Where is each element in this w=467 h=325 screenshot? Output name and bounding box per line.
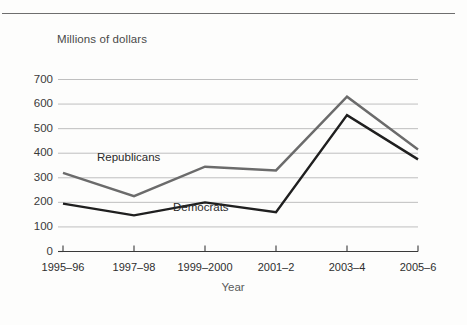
y-axis-tick-label: 100 xyxy=(19,220,53,232)
series-line-republicans xyxy=(63,97,418,197)
series-label-democrats: Democrats xyxy=(173,201,229,213)
x-axis-tick-label: 2005–6 xyxy=(400,261,437,273)
y-axis-tick-label: 400 xyxy=(19,146,53,158)
y-axis-tick-label: 200 xyxy=(19,195,53,207)
x-axis-tick-label: 1999–2000 xyxy=(177,261,232,273)
line-chart-plot-area xyxy=(0,0,467,325)
y-axis-tick-label: 0 xyxy=(19,245,53,257)
series-label-republicans: Republicans xyxy=(97,151,160,163)
chart-figure: Millions of dollars 01002003004005006007… xyxy=(0,0,467,325)
x-axis-tick-label: 1995–96 xyxy=(42,261,85,273)
x-axis-title: Year xyxy=(221,281,244,293)
y-axis-tick-label: 600 xyxy=(19,97,53,109)
series-line-democrats xyxy=(63,115,418,215)
y-axis-tick-label: 300 xyxy=(19,171,53,183)
x-axis-tick-label: 2003–4 xyxy=(329,261,366,273)
x-axis-tick-label: 2001–2 xyxy=(258,261,295,273)
x-axis-tick-label: 1997–98 xyxy=(113,261,156,273)
y-axis-tick-label: 500 xyxy=(19,122,53,134)
y-axis-tick-label: 700 xyxy=(19,73,53,85)
axes-group xyxy=(58,80,418,252)
